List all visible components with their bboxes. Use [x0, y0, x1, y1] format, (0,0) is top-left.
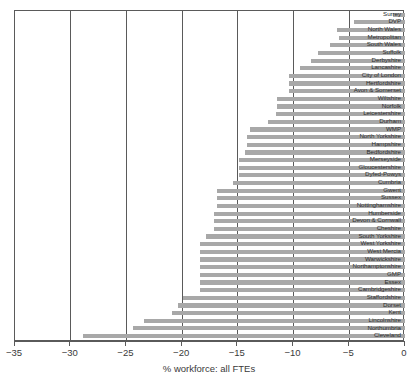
bar-row: Devon & Cornwall	[15, 218, 403, 226]
bar-row: Northumbria	[15, 325, 403, 333]
bar-row: City of London	[15, 72, 403, 80]
x-axis: −35−30−25−20−15−10−50 % workforce: all F…	[0, 341, 418, 383]
bar-row: Northamptonshire	[15, 263, 403, 271]
x-axis-tick	[181, 341, 182, 346]
bar-row: North Wales	[15, 26, 403, 34]
bar	[133, 326, 405, 330]
bar	[217, 196, 405, 200]
bar-row: Nottinghamshire	[15, 202, 403, 210]
x-axis-tick-label: −30	[62, 347, 78, 358]
bar-series: SurreyDVPNorth WalesMetropolitanSouth Wa…	[15, 11, 403, 340]
x-axis-tick-label: −10	[285, 347, 301, 358]
x-axis-line	[14, 341, 404, 342]
x-axis-tick	[348, 341, 349, 346]
bar-row: Leicestershire	[15, 110, 403, 118]
x-axis-tick-label: −20	[173, 347, 189, 358]
bar-row: Lincolnshire	[15, 317, 403, 325]
bar-row: Sussex	[15, 195, 403, 203]
bar-row: Kent	[15, 309, 403, 317]
bar-row: Cambridgeshire	[15, 286, 403, 294]
bar-row: South Yorkshire	[15, 233, 403, 241]
x-axis-tick-label: −35	[6, 347, 22, 358]
bar-row: Hampshire	[15, 141, 403, 149]
bar-row: Norfolk	[15, 103, 403, 111]
bar-category-label: Cleveland	[374, 331, 401, 340]
bar-row: Warwickshire	[15, 256, 403, 264]
bar-row: Gloucestershire	[15, 164, 403, 172]
bar-row: Surrey	[15, 11, 403, 19]
x-axis-tick	[236, 341, 237, 346]
x-axis-tick-label: −25	[117, 347, 133, 358]
bar	[83, 334, 405, 338]
bar-row: Merseyside	[15, 156, 403, 164]
bar	[178, 303, 405, 307]
bar-row: Cheshire	[15, 225, 403, 233]
bar-row: WMP	[15, 126, 403, 134]
bar-row: Durham	[15, 118, 403, 126]
x-axis-tick	[14, 341, 15, 346]
bar	[200, 273, 405, 277]
bar-row: GMP	[15, 271, 403, 279]
bar-row: Cumbria	[15, 179, 403, 187]
bar-row: Essex	[15, 279, 403, 287]
bar-row: Dyfed-Powys	[15, 172, 403, 180]
x-axis-tick	[69, 341, 70, 346]
chart-figure: SurreyDVPNorth WalesMetropolitanSouth Wa…	[0, 0, 418, 383]
bar	[217, 189, 405, 193]
bar-row: Hertfordshire	[15, 80, 403, 88]
bar	[200, 280, 405, 284]
bar-row: Staffordshire	[15, 294, 403, 302]
bar-row: Cleveland	[15, 332, 403, 340]
bar-row: Lancashire	[15, 65, 403, 73]
bar-row: Dorset	[15, 302, 403, 310]
x-axis-label: % workforce: all FTEs	[0, 363, 418, 374]
bar-row: West Yorkshire	[15, 241, 403, 249]
x-axis-tick-label: 0	[401, 347, 406, 358]
bar-row: Suffolk	[15, 49, 403, 57]
bar-row: Wiltshire	[15, 95, 403, 103]
bar-row: West Mercia	[15, 248, 403, 256]
bar-row: Metropolitan	[15, 34, 403, 42]
x-axis-tick	[404, 341, 405, 346]
bar	[250, 127, 405, 131]
bar-row: Humberside	[15, 210, 403, 218]
bar-row: Bedfordshire	[15, 149, 403, 157]
bar	[172, 311, 405, 315]
bar-row: Avon & Somerset	[15, 88, 403, 96]
bar-row: DVP	[15, 19, 403, 27]
bar	[144, 319, 405, 323]
bar-row: Derbyshire	[15, 57, 403, 65]
x-axis-tick	[125, 341, 126, 346]
x-axis-tick	[292, 341, 293, 346]
plot-area: SurreyDVPNorth WalesMetropolitanSouth Wa…	[14, 10, 404, 341]
bar-row: Gwent	[15, 187, 403, 195]
bar-row: South Wales	[15, 42, 403, 50]
x-axis-tick-label: −15	[229, 347, 245, 358]
x-axis-tick-label: −5	[343, 347, 354, 358]
bar-row: North Yorkshire	[15, 133, 403, 141]
